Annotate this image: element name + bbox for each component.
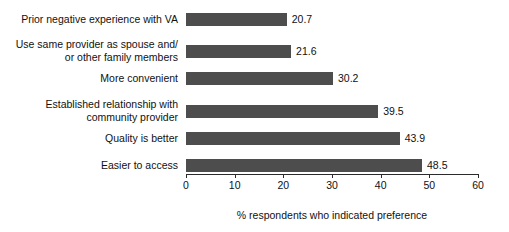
x-axis-tick <box>186 174 187 178</box>
bar-value-label: 39.5 <box>383 105 403 118</box>
x-axis-tick <box>381 174 382 178</box>
x-axis-tick <box>332 174 333 178</box>
bar-value-label: 20.7 <box>292 13 312 26</box>
x-axis-tick-label: 60 <box>463 179 493 191</box>
plot-area: 20.7 21.6 30.2 39.5 43.9 48.5 <box>186 0 509 174</box>
category-label: Prior negative experience with VA <box>0 13 178 26</box>
category-label: Quality is better <box>0 132 178 145</box>
x-axis-title-line1: % respondents who indicated preference <box>237 209 427 221</box>
bar <box>186 72 333 85</box>
bar <box>186 159 422 172</box>
x-axis-title: % respondents who indicated preference f… <box>186 196 478 232</box>
bar-value-label: 48.5 <box>427 159 447 172</box>
bar <box>186 13 287 26</box>
x-axis-tick-label: 30 <box>317 179 347 191</box>
category-label: More convenient <box>0 72 178 85</box>
x-axis-tick <box>235 174 236 178</box>
category-label: Established relationship with community … <box>0 98 178 124</box>
category-label: Easier to access <box>0 159 178 172</box>
x-axis-tick <box>283 174 284 178</box>
bar <box>186 105 378 118</box>
bar-value-label: 43.9 <box>405 132 425 145</box>
x-axis-tick <box>478 174 479 178</box>
x-axis-tick-label: 20 <box>268 179 298 191</box>
category-label-column: Prior negative experience with VA Use sa… <box>0 0 182 174</box>
x-axis-tick-label: 0 <box>171 179 201 191</box>
category-label: Use same provider as spouse and/ or othe… <box>0 38 178 64</box>
bar-value-label: 21.6 <box>296 45 316 58</box>
x-axis-tick-label: 40 <box>366 179 396 191</box>
x-axis-tick-label: 10 <box>220 179 250 191</box>
bar <box>186 132 400 145</box>
bar <box>186 45 291 58</box>
bar-chart: Prior negative experience with VA Use sa… <box>0 0 509 232</box>
x-axis-tick-label: 50 <box>414 179 444 191</box>
bar-value-label: 30.2 <box>338 72 358 85</box>
x-axis-tick <box>429 174 430 178</box>
